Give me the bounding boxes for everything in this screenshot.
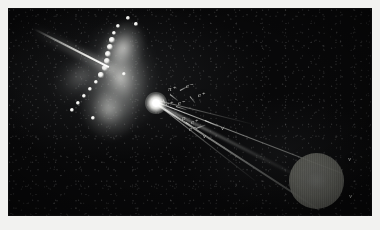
bubble-bead xyxy=(107,44,113,50)
bubble-bead xyxy=(134,22,137,25)
bubble-bead xyxy=(82,94,86,98)
figure-container: π⁺e⁻e⁺e⁻e⁺pe⁺e⁻νννν xyxy=(0,0,380,230)
bubble-bead xyxy=(94,80,99,85)
bubble-bead xyxy=(109,37,115,43)
bubble-bead xyxy=(70,108,74,112)
secondary-track xyxy=(176,106,187,110)
lbl-nu-4: ν xyxy=(349,193,352,200)
lbl-pi-plus: π⁺ xyxy=(168,86,176,93)
lbl-nu-3: ν xyxy=(348,156,351,163)
bubble-bead xyxy=(76,101,81,106)
bubble-bead xyxy=(112,31,117,36)
outgoing-track-upper xyxy=(158,100,251,124)
lbl-e-minus-3: e⁻ xyxy=(189,126,196,133)
secondary-track xyxy=(170,94,178,101)
bubble-bead xyxy=(91,116,95,120)
bubble-chamber-plate: π⁺e⁻e⁺e⁻e⁺pe⁺e⁻νννν xyxy=(8,8,372,216)
shower-main-glow xyxy=(52,11,178,145)
bubble-bead xyxy=(98,72,103,77)
lbl-p: p xyxy=(182,115,186,122)
lbl-e-plus-3: e⁺ xyxy=(191,119,198,126)
secondary-track xyxy=(186,122,197,129)
interaction-vertex xyxy=(145,92,167,114)
secondary-track xyxy=(180,86,188,91)
bubble-bead xyxy=(116,24,120,28)
outgoing-track-lower xyxy=(160,106,255,181)
lbl-e-plus-1: e⁺ xyxy=(198,92,205,99)
incoming-beam-track xyxy=(34,28,110,68)
secondary-track xyxy=(190,96,196,103)
grey-disc-core xyxy=(304,170,330,192)
outgoing-track-broad xyxy=(157,104,310,183)
lbl-e-plus-2: e⁺ xyxy=(166,101,173,108)
bubble-bead xyxy=(126,16,130,20)
secondary-track xyxy=(196,125,206,129)
secondary-track xyxy=(205,120,218,127)
bubble-bead xyxy=(105,51,112,58)
bubble-bead xyxy=(88,87,92,91)
bubble-bead xyxy=(122,72,126,76)
lbl-e-minus-2: e⁻ xyxy=(178,100,185,107)
lbl-nu-2: ν xyxy=(221,125,224,132)
lbl-nu-1: ν xyxy=(203,133,206,140)
lbl-e-minus-1: e⁻ xyxy=(186,83,193,90)
